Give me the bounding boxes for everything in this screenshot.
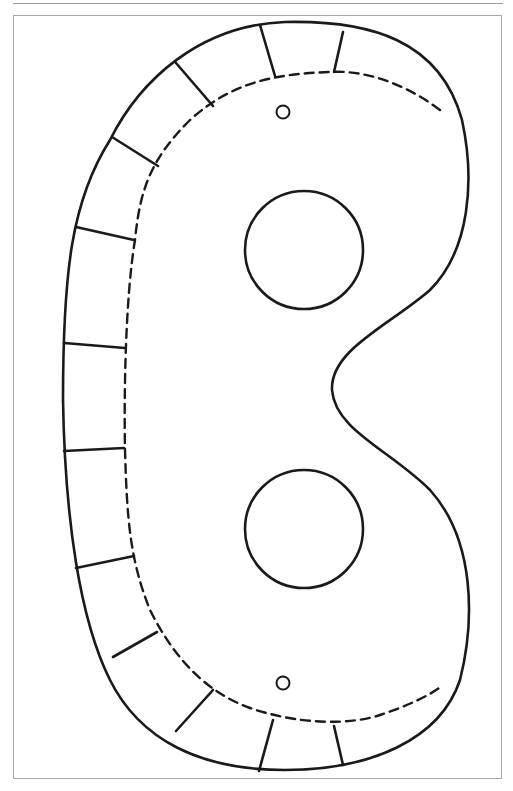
- string-hole-bottom: [277, 677, 290, 690]
- fold-line: [125, 72, 442, 722]
- mask-template: [0, 0, 513, 791]
- eye-hole-top: [245, 191, 363, 309]
- eye-hole-bottom: [245, 470, 363, 588]
- string-hole-top: [277, 106, 290, 119]
- tab-lines: [64, 25, 343, 771]
